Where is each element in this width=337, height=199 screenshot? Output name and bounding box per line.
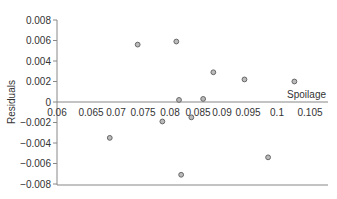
x-tick-label: 0.095 [235,107,260,118]
data-point [266,155,271,160]
data-point [135,42,140,47]
y-tick-label: 0.002 [26,76,51,87]
y-tick-label: 0 [45,97,51,108]
data-point [211,70,216,75]
y-tick-label: 0.008 [26,15,51,26]
y-tick-label: 0.004 [26,56,51,67]
y-tick-label: −0.004 [20,138,51,149]
x-tick-label: 0.08 [160,107,180,118]
data-point [292,79,297,84]
x-tick-label: 0.065 [78,107,103,118]
y-tick-label: −0.008 [20,179,51,190]
data-point [242,77,247,82]
data-point [160,119,165,124]
data-point [174,39,179,44]
x-tick-label: 0.075 [130,107,155,118]
data-point [177,98,182,103]
data-point [179,172,184,177]
x-tick-label: 0.105 [297,107,322,118]
residual-scatter-plot: 0.0080.0060.0040.0020−0.002−0.004−0.006−… [0,0,337,199]
x-axis-label: Spoilage [287,89,326,100]
y-tick-label: 0.006 [26,35,51,46]
y-axis-label: Residuals [6,80,17,124]
x-tick-label: 0.1 [270,107,284,118]
x-tick-label: 0.06 [47,107,67,118]
x-axis: 0.060.0650.070.0750.080.0850.090.0950.10… [47,102,328,185]
data-point [107,135,112,140]
y-tick-label: −0.002 [20,117,51,128]
x-tick-label: 0.07 [106,107,126,118]
y-tick-label: −0.006 [20,158,51,169]
x-tick-label: 0.09 [212,107,232,118]
data-point [201,97,206,102]
y-axis: 0.0080.0060.0040.0020−0.002−0.004−0.006−… [20,15,57,190]
data-point [189,115,194,120]
